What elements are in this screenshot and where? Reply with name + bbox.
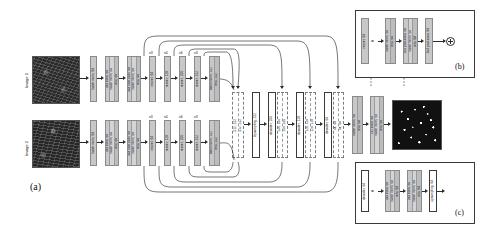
panel-b-block-2: 3x3 post-conv, 64	[425, 18, 433, 64]
concat-segment: 512, 512	[239, 93, 244, 157]
panel-label-c: (c)	[455, 208, 464, 217]
decoder-concat-64: 64, 64 64, 64	[333, 92, 344, 158]
arrow-head	[205, 76, 208, 80]
stage-repeat-0-top: x3	[149, 51, 153, 55]
panel-b-block-0: batch norm, 64 relu, 64	[385, 18, 396, 64]
layer-segment: decoder, 256	[269, 93, 275, 157]
layer-segment: relu, 64	[137, 121, 140, 165]
arrow-head	[403, 189, 406, 193]
arrow-head	[381, 39, 384, 43]
layer-segment: relu, 64	[391, 19, 395, 63]
arrow-head	[399, 39, 402, 43]
encoder-stage-3-top: resnet, 512	[194, 56, 201, 102]
panel-c-block-2: upsampling, 64	[429, 170, 437, 212]
arrow-head	[425, 189, 428, 193]
layer-segment: relu, 64	[358, 97, 362, 153]
layer-segment: resnet, 64	[150, 57, 155, 101]
concat-segment: 128, 128	[311, 93, 315, 157]
panel-label-b: (b)	[455, 62, 464, 71]
arrow-head	[348, 122, 351, 126]
encoder-stage-2-bottom: resnet, 256	[179, 120, 186, 166]
arrow-head	[381, 189, 384, 193]
stage-repeat-3-bottom: x3	[194, 115, 198, 119]
layer-segment: decoder, 64	[362, 171, 368, 211]
stage-repeat-2-top: x6	[179, 51, 183, 55]
layer-segment: relu, 512	[215, 121, 219, 165]
decoder-concat-128: 128, 128 128, 128	[305, 92, 316, 158]
stage-repeat-1-top: x4	[164, 51, 168, 55]
encoder-stem-block-2-top: 3x3 post-pool, 64 batch norm, 64 relu, 6…	[127, 56, 141, 102]
input-thumbnail-image-1	[32, 56, 80, 104]
panel-c-block-0: 3x3 conv, 64 batch norm, 64 relu, 64	[385, 170, 400, 212]
arrow-head	[145, 140, 148, 144]
figure-canvas: Image 1 Image 2 batch norm, 64 3x3 conv,…	[0, 0, 480, 247]
panel-b-equals: =	[371, 38, 374, 44]
stage-repeat-3-top: x3	[194, 51, 198, 55]
layer-segment: upsampling, 64	[430, 171, 436, 211]
arrow-head	[442, 189, 445, 193]
encoder-stem-block-2-bottom: 3x3 post-pool, 64 batch norm, 64 relu, 6…	[127, 120, 141, 166]
input-label-image-2: Image 2	[24, 126, 29, 156]
stage-repeat-2-bottom: x6	[179, 115, 183, 119]
layer-segment: resnet, 128	[165, 121, 170, 165]
concat-segment: 64, 64	[339, 93, 343, 157]
arrow-head	[123, 76, 126, 80]
plus-circle-icon	[446, 37, 455, 46]
bridge-upsampling-512: Upsampling, 512	[252, 92, 260, 158]
arrow-head	[336, 86, 340, 89]
arrow-head	[248, 122, 251, 126]
input-label-image-1: Image 1	[24, 58, 29, 88]
panel-c-equals: =	[371, 188, 374, 194]
arrow-head	[175, 140, 178, 144]
input-thumbnail-image-2	[32, 120, 80, 168]
arrow-head	[101, 140, 104, 144]
decoder-block-64: decoder, 64	[324, 92, 332, 158]
panel-b-title-block: resnet, 64	[361, 18, 369, 64]
layer-segment: resnet, 256	[180, 57, 185, 101]
arrow-head	[101, 76, 104, 80]
layer-segment: decoder, 128	[297, 93, 303, 157]
decoder-block-256: decoder, 256	[268, 92, 276, 158]
layer-segment: resnet, 64	[150, 121, 155, 165]
decoder-block-128: decoder, 128	[296, 92, 304, 158]
arrow-head	[175, 76, 178, 80]
layer-segment: resnet, 128	[165, 57, 170, 101]
arrow-head	[160, 76, 163, 80]
decoder-concat-256: 256, 256 256, 256	[277, 92, 288, 158]
bridge-concat-512: 512, 512 512, 512	[232, 92, 244, 158]
panel-c-block-1: 3x3 conv, 64 batch norm, 64 relu, 64	[407, 170, 422, 212]
layer-segment: decoder, 64	[325, 93, 331, 157]
arrow	[79, 142, 86, 143]
arrow-head	[264, 122, 267, 126]
encoder-stem-block-1-bottom: 3x3 conv, 64 batch norm, 64 relu, 64	[105, 120, 119, 166]
encoder-stem-block-0-top: batch norm, 64	[90, 56, 97, 102]
arrow-head	[86, 140, 89, 144]
arrow-head	[308, 86, 312, 89]
encoder-stage-0-top: resnet, 64	[149, 56, 156, 102]
arrow-head	[86, 76, 89, 80]
arrow	[79, 78, 86, 79]
encoder-stage-1-top: resnet, 128	[164, 56, 171, 102]
arrow-head	[236, 86, 240, 89]
stage-repeat-1-bottom: x4	[164, 115, 168, 119]
layer-segment: relu, 64	[380, 97, 383, 153]
panel-label-a: (a)	[30, 181, 41, 192]
arrow-head	[145, 76, 148, 80]
encoder-tail-top: batch norm, 512 relu, 512	[209, 56, 220, 102]
layer-segment: relu, 512	[215, 57, 219, 101]
arrow-head	[320, 122, 323, 126]
concat-segment: 256, 256	[283, 93, 287, 157]
arrow-head	[231, 86, 235, 89]
arrow-head	[366, 122, 369, 126]
layer-segment: resnet, 512	[195, 121, 200, 165]
layer-segment: Upsampling, 512	[253, 93, 259, 157]
layer-segment: relu, 64	[417, 171, 421, 211]
output-prediction-image	[392, 100, 442, 150]
arrow-head	[190, 140, 193, 144]
layer-segment: relu, 64	[115, 57, 118, 101]
head-block-0: batch norm, 64 relu, 64	[352, 96, 363, 154]
layer-segment: resnet, 64	[362, 19, 368, 63]
arrow-head	[205, 140, 208, 144]
encoder-stem-block-0-bottom: batch norm, 64	[90, 120, 97, 166]
encoder-stem-block-1-top: 3x3 conv, 64 batch norm, 64 relu, 64	[105, 56, 119, 102]
